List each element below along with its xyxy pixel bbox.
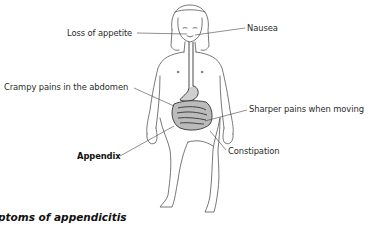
label-crampy-pains: Crampy pains in the abdomen [4, 82, 128, 92]
label-nausea: Nausea [247, 23, 278, 33]
label-loss-of-appetite: Loss of appetite [67, 28, 132, 38]
label-sharper-pains: Sharper pains when moving [249, 104, 364, 114]
label-constipation: Constipation [228, 146, 280, 156]
figure-caption: ptoms of appendicitis [0, 211, 127, 223]
label-appendix: Appendix [77, 151, 121, 161]
